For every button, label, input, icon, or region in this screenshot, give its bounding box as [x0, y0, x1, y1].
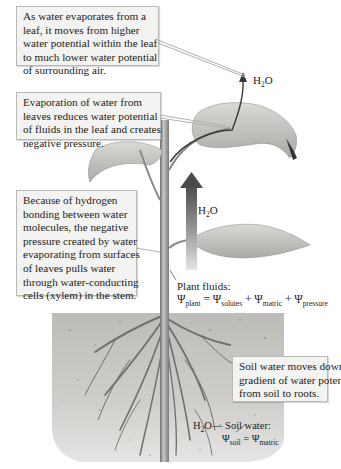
leaf-upper-right: [192, 103, 296, 158]
h2o-sub: 2: [261, 80, 265, 89]
callout-line: from soil to roots.: [239, 387, 322, 401]
equals-sign: =: [241, 433, 252, 444]
callout-line: leaf, it moves from higher: [23, 24, 153, 38]
callout-leaf-evaporation: As water evaporates from a leaf, it move…: [16, 6, 159, 66]
h2o-o: O: [265, 74, 273, 86]
callout-line: pressure created by water: [23, 235, 131, 249]
h2o-label-stem: H2O: [198, 204, 218, 218]
soil-water-title: H2O— Soil water:: [193, 419, 271, 433]
callout-line: Soil water moves down a: [239, 360, 322, 374]
callout-line: gradient of water potential: [239, 374, 322, 388]
psi-symbol: Ψ: [252, 433, 260, 444]
h2o-label-top: H2O: [253, 74, 273, 88]
callout-line: of fluids in the leaf and creates: [23, 123, 155, 137]
psi-sub-plant: plant: [186, 299, 201, 308]
h2o-o: O: [204, 420, 212, 431]
psi-symbol: Ψ: [254, 293, 263, 305]
psi-symbol: Ψ: [294, 293, 303, 305]
stem: [160, 120, 169, 462]
equals-sign: =: [201, 293, 213, 305]
callout-line: Because of hydrogen: [23, 194, 131, 208]
plant-fluids-equation: Ψplant = Ψsolutes + Ψmatric + Ψpressure: [177, 293, 328, 307]
psi-sub-solutes: solutes: [221, 299, 242, 308]
callout-line: Evaporation of water from: [23, 96, 155, 110]
callout-line: water potential within the leaf: [23, 37, 153, 51]
callout-line: to much lower water potential: [23, 51, 153, 65]
callout-line: bonding between water: [23, 208, 131, 222]
plus-sign: +: [282, 293, 294, 305]
h2o-o: O: [210, 204, 218, 216]
callout-line: through water-conducting: [23, 276, 131, 290]
soil-water-equation: Ψsoil = Ψmatric: [222, 432, 279, 446]
water-upflow-arrow: [180, 172, 203, 270]
callout-line: leaves reduces water potential: [23, 110, 155, 124]
callout-line: of surrounding air.: [23, 64, 153, 78]
plant-fluids-title: Plant fluids:: [177, 280, 230, 293]
psi-sub-soil: soil: [230, 438, 241, 447]
psi-sub-matric: matric: [263, 299, 282, 308]
callout-line: As water evaporates from a: [23, 10, 153, 24]
plus-sign: +: [242, 293, 254, 305]
psi-symbol: Ψ: [177, 293, 186, 305]
psi-symbol: Ψ: [213, 293, 222, 305]
callout-line: molecules, the negative: [23, 221, 131, 235]
callout-line: of leaves pulls water: [23, 262, 131, 276]
callout-negative-pressure: Evaporation of water from leaves reduces…: [16, 92, 161, 140]
h2o-sub: 2: [201, 425, 205, 434]
h2o-h: H: [193, 420, 201, 431]
h2o-sub: 2: [206, 210, 210, 219]
psi-symbol: Ψ: [222, 433, 230, 444]
callout-line: cells (xylem) in the stem.: [23, 289, 131, 303]
soil-water-text: — Soil water:: [212, 420, 271, 431]
callout-hydrogen-bonding: Because of hydrogen bonding between wate…: [16, 190, 137, 296]
leaf-lower-right: [190, 224, 310, 258]
callout-line: negative pressure.: [23, 137, 155, 151]
h2o-h: H: [198, 204, 206, 216]
psi-sub-matric: matric: [260, 438, 279, 447]
callout-soil-gradient: Soil water moves down a gradient of wate…: [232, 356, 328, 402]
h2o-h: H: [253, 74, 261, 86]
callout-line: evaporating from surfaces: [23, 248, 131, 262]
psi-sub-pressure: pressure: [303, 299, 328, 308]
